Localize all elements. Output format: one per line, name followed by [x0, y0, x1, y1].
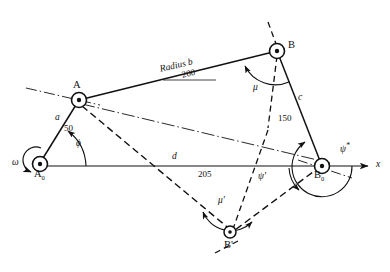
link-value-a: 50: [64, 124, 73, 133]
centerline-A-to-B0: [82, 104, 330, 163]
joint-B: [270, 44, 285, 59]
link-c-rocker: [277, 51, 322, 166]
joint-label-A: A: [73, 80, 81, 91]
axis-label-x: x: [376, 160, 380, 170]
link-label-d: d: [172, 152, 177, 162]
link-label-c: c: [298, 93, 302, 103]
link-value-c: 150: [278, 114, 292, 123]
joint-Bprime: [224, 226, 236, 238]
centerline-through-A: [26, 88, 100, 105]
angle-label-mu: μ: [253, 83, 258, 93]
angle-arc-mu: [245, 66, 289, 85]
joint-label-A0: A0: [34, 169, 45, 182]
kinematic-diagram: A0 A B B0 B' a 50 Radius b 200 c 150 d 2…: [0, 0, 390, 272]
angle-label-mu-prime: μ': [218, 196, 225, 206]
joint-label-Bprime: B': [224, 240, 233, 251]
joint-label-B: B: [288, 40, 295, 51]
link-a-crank: [40, 100, 79, 163]
angle-label-phi: ϕ: [76, 139, 81, 149]
joint-label-B0: B0: [314, 170, 324, 183]
link-b-coupler: [79, 51, 277, 100]
link-value-d: 205: [198, 170, 212, 179]
angle-label-psi-prime: ψ': [258, 172, 266, 182]
angle-label-psi-star: ψ*: [340, 142, 350, 155]
dashed-rocker-B0-to-Bprime: [231, 166, 321, 233]
omega-label: ω: [12, 158, 19, 168]
joint-A: [72, 93, 87, 108]
diagram-canvas: [0, 0, 390, 272]
link-label-a: a: [55, 113, 60, 123]
angle-arc-phi: [68, 131, 86, 166]
